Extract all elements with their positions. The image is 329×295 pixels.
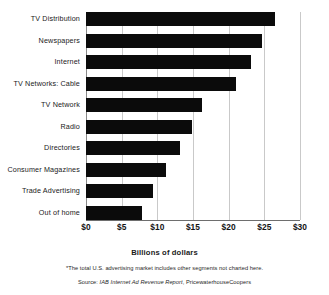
source-prefix: Source: bbox=[78, 279, 100, 285]
gridline bbox=[300, 12, 301, 220]
bar-row bbox=[86, 184, 300, 198]
x-axis-line bbox=[86, 220, 300, 221]
bar-row bbox=[86, 163, 300, 177]
bar-row bbox=[86, 12, 300, 26]
category-label: Internet bbox=[0, 55, 80, 69]
bar-row bbox=[86, 77, 300, 91]
x-tick-label: $0 bbox=[81, 222, 90, 232]
bar-row bbox=[86, 34, 300, 48]
category-label: Trade Advertising bbox=[0, 184, 80, 198]
x-tick-label: $10 bbox=[150, 222, 164, 232]
bar bbox=[86, 34, 262, 48]
category-label: TV Distribution bbox=[0, 12, 80, 26]
bar-row bbox=[86, 55, 300, 69]
bar bbox=[86, 98, 202, 112]
source-suffix: , PricewaterhouseCoopers bbox=[183, 279, 251, 285]
chart-source-note: Source: IAB Internet Ad Revenue Report, … bbox=[0, 279, 329, 285]
category-label: Radio bbox=[0, 120, 80, 134]
category-label: Out of home bbox=[0, 206, 80, 220]
bar-series bbox=[86, 12, 300, 220]
bar-row bbox=[86, 206, 300, 220]
bar-row bbox=[86, 98, 300, 112]
chart-footnote: *The total U.S. advertising market inclu… bbox=[0, 265, 329, 271]
x-tick-label: $30 bbox=[293, 222, 307, 232]
category-label: Directories bbox=[0, 141, 80, 155]
bar-chart: TV DistributionNewspapersInternetTV Netw… bbox=[0, 0, 329, 295]
bar bbox=[86, 77, 236, 91]
bar-row bbox=[86, 141, 300, 155]
bar bbox=[86, 206, 142, 220]
category-label: Consumer Magazines bbox=[0, 163, 80, 177]
bar bbox=[86, 120, 192, 134]
x-axis-tick-labels: $0$5$10$15$20$25$30 bbox=[86, 222, 300, 236]
category-label: TV Networks: Cable bbox=[0, 77, 80, 91]
category-label: Newspapers bbox=[0, 34, 80, 48]
bar bbox=[86, 55, 251, 69]
bar bbox=[86, 163, 166, 177]
x-tick-label: $15 bbox=[186, 222, 200, 232]
x-tick-label: $5 bbox=[117, 222, 126, 232]
bar-row bbox=[86, 120, 300, 134]
category-axis-labels: TV DistributionNewspapersInternetTV Netw… bbox=[0, 12, 80, 220]
plot-area bbox=[86, 12, 300, 220]
bar bbox=[86, 12, 275, 26]
x-tick-label: $20 bbox=[222, 222, 236, 232]
category-label: TV Network bbox=[0, 98, 80, 112]
source-report-title: IAB Internet Ad Revenue Report bbox=[100, 279, 183, 285]
x-tick-label: $25 bbox=[257, 222, 271, 232]
x-axis-title: Billions of dollars bbox=[0, 248, 329, 257]
bar bbox=[86, 141, 180, 155]
bar bbox=[86, 184, 153, 198]
